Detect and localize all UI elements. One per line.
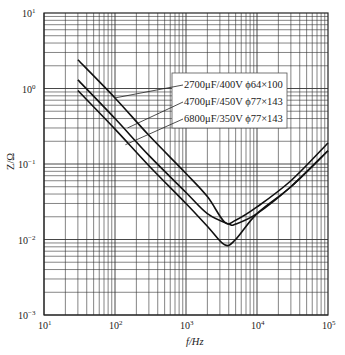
chart-svg: 10110210310410510−310−210−1100101f/HzZ/Ω…	[0, 0, 345, 355]
y-tick-label: 10−1	[18, 158, 36, 170]
legend-entry: 4700μF/450V ϕ77×143	[184, 96, 283, 107]
y-axis-label: Z/Ω	[5, 153, 16, 170]
x-tick-label: 104	[251, 319, 265, 331]
x-tick-label: 105	[322, 319, 336, 331]
grid	[44, 13, 328, 315]
impedance-chart: 10110210310410510−310−210−1100101f/HzZ/Ω…	[0, 0, 345, 355]
legend-entry: 2700μF/400V ϕ64×100	[184, 79, 283, 90]
x-tick-label: 103	[180, 319, 194, 331]
y-tick-label: 101	[22, 7, 36, 19]
x-tick-label: 102	[109, 319, 123, 331]
legend-entry: 6800μF/350V ϕ77×143	[184, 113, 283, 124]
x-tick-label: 101	[38, 319, 52, 331]
y-tick-label: 100	[22, 83, 36, 95]
x-axis-label: f/Hz	[186, 336, 204, 347]
y-tick-label: 10−2	[18, 234, 36, 246]
y-tick-label: 10−3	[18, 309, 36, 321]
